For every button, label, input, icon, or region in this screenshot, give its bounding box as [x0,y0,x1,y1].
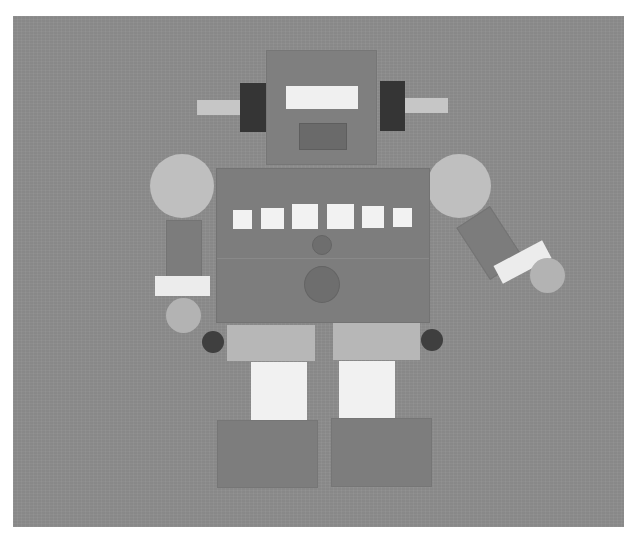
left-antenna [197,100,241,115]
chest-button-1 [233,210,252,229]
body-seam [217,258,429,259]
left-hip [227,325,315,361]
left-shoulder [150,154,214,218]
chest-button-3 [292,204,318,229]
left-leg [251,362,307,420]
right-hip [333,323,420,360]
left-foot [217,420,318,488]
chest-dot-large [304,266,340,303]
left-arm [166,220,202,277]
chest-button-6 [393,208,412,227]
right-hand [530,258,565,293]
eyes-bar [286,86,358,109]
right-leg [339,361,395,419]
right-joint-ball [421,329,443,351]
right-foot [331,418,432,487]
right-ear [380,81,405,131]
left-cuff [155,276,210,296]
mouth [299,123,347,150]
left-ear [240,83,266,132]
right-antenna [404,98,448,113]
chest-button-2 [261,208,284,229]
left-hand [166,298,201,333]
right-shoulder [427,154,491,218]
left-joint-ball [202,331,224,353]
chest-button-5 [362,206,384,228]
chest-dot-small [312,235,332,255]
chest-button-4 [327,204,354,229]
